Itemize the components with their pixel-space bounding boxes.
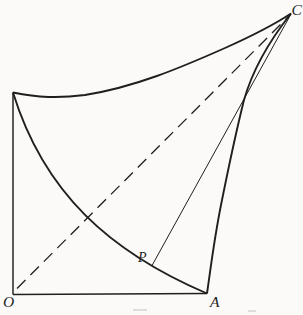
main-curve [13,93,207,294]
normal-line-pc [152,14,291,265]
origin-label: O [3,293,14,310]
baseline [13,294,207,295]
diagonal-dashed-line [17,16,290,289]
point-p-label: P [137,250,147,265]
point-a-label: A [209,293,220,310]
scan-speck [133,309,147,311]
point-c-label: C [292,1,303,18]
geometric-figure: O A P C [0,0,303,315]
figure-canvas: O A P C [0,0,303,315]
scan-speck [248,310,256,312]
